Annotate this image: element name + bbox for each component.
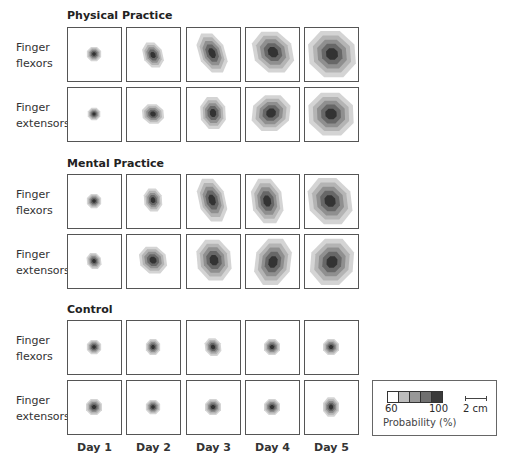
probability-contour-level-4 bbox=[211, 405, 215, 409]
probability-contour-level-4 bbox=[92, 52, 95, 55]
map-panel-mental-flexors-day4 bbox=[245, 174, 300, 229]
map-panel-physical-extensors-day2 bbox=[126, 87, 181, 142]
probability-contour-level-4 bbox=[270, 405, 274, 409]
row-label-physical-flexors: Fingerflexors bbox=[16, 40, 53, 72]
legend-box: 60 100 Probability (%) 2 cm bbox=[372, 380, 497, 436]
map-panel-control-flexors-day3 bbox=[186, 320, 241, 375]
row-label-control-extensors: Fingerextensors bbox=[16, 393, 70, 425]
row-label-control-flexors: Fingerflexors bbox=[16, 333, 53, 365]
map-panel-mental-extensors-day1 bbox=[67, 234, 122, 289]
map-panel-physical-extensors-day4 bbox=[245, 87, 300, 142]
probability-contour-level-4 bbox=[329, 405, 333, 410]
day-label-5: Day 5 bbox=[303, 441, 360, 454]
map-panel-mental-flexors-day5 bbox=[304, 174, 359, 229]
probability-contour-level-4 bbox=[329, 345, 333, 349]
map-panel-control-flexors-day5 bbox=[304, 320, 359, 375]
section-title-physical-practice: Physical Practice bbox=[67, 9, 172, 22]
probability-contour-level-4 bbox=[151, 405, 154, 408]
map-panel-control-extensors-day3 bbox=[186, 380, 241, 435]
section-title-control: Control bbox=[67, 303, 112, 316]
legend-max-label: 100 bbox=[429, 403, 448, 414]
swatch-level-1 bbox=[399, 392, 410, 402]
map-panel-mental-extensors-day5 bbox=[304, 234, 359, 289]
map-panel-physical-flexors-day4 bbox=[245, 27, 300, 82]
map-panel-mental-extensors-day3 bbox=[186, 234, 241, 289]
map-panel-mental-flexors-day1 bbox=[67, 174, 122, 229]
map-panel-control-flexors-day4 bbox=[245, 320, 300, 375]
map-panel-mental-flexors-day3 bbox=[186, 174, 241, 229]
scale-bar-label: 2 cm bbox=[463, 403, 488, 414]
map-panel-mental-flexors-day2 bbox=[126, 174, 181, 229]
map-panel-physical-flexors-day1 bbox=[67, 27, 122, 82]
map-panel-control-extensors-day5 bbox=[304, 380, 359, 435]
day-label-4: Day 4 bbox=[244, 441, 301, 454]
map-panel-mental-extensors-day2 bbox=[126, 234, 181, 289]
probability-contour-level-4 bbox=[270, 345, 274, 349]
map-panel-control-flexors-day1 bbox=[67, 320, 122, 375]
day-label-1: Day 1 bbox=[66, 441, 123, 454]
swatch-level-3 bbox=[421, 392, 432, 402]
day-label-3: Day 3 bbox=[185, 441, 242, 454]
day-label-2: Day 2 bbox=[125, 441, 182, 454]
map-panel-physical-extensors-day3 bbox=[186, 87, 241, 142]
map-panel-physical-extensors-day1 bbox=[67, 87, 122, 142]
probability-contour-level-4 bbox=[92, 199, 95, 202]
map-panel-mental-extensors-day4 bbox=[245, 234, 300, 289]
section-title-mental-practice: Mental Practice bbox=[67, 157, 164, 170]
scale-bar-icon bbox=[465, 398, 487, 399]
probability-color-scale bbox=[387, 391, 443, 403]
swatch-level-4 bbox=[432, 392, 442, 402]
map-panel-physical-flexors-day3 bbox=[186, 27, 241, 82]
row-label-mental-extensors: Fingerextensors bbox=[16, 247, 70, 279]
swatch-level-0 bbox=[388, 392, 399, 402]
probability-contour-level-4 bbox=[151, 345, 154, 349]
map-panel-control-extensors-day2 bbox=[126, 380, 181, 435]
swatch-level-2 bbox=[410, 392, 421, 402]
map-panel-physical-flexors-day2 bbox=[126, 27, 181, 82]
legend-min-label: 60 bbox=[385, 403, 398, 414]
probability-contour-level-4 bbox=[92, 405, 96, 409]
map-panel-physical-flexors-day5 bbox=[304, 27, 359, 82]
probability-contour-level-4 bbox=[92, 345, 95, 348]
map-panel-control-extensors-day4 bbox=[245, 380, 300, 435]
row-label-mental-flexors: Fingerflexors bbox=[16, 187, 53, 219]
probability-contour-level-4 bbox=[92, 112, 95, 115]
legend-title: Probability (%) bbox=[383, 417, 456, 428]
row-label-physical-extensors: Fingerextensors bbox=[16, 100, 70, 132]
map-panel-physical-extensors-day5 bbox=[304, 87, 359, 142]
map-panel-control-flexors-day2 bbox=[126, 320, 181, 375]
map-panel-control-extensors-day1 bbox=[67, 380, 122, 435]
